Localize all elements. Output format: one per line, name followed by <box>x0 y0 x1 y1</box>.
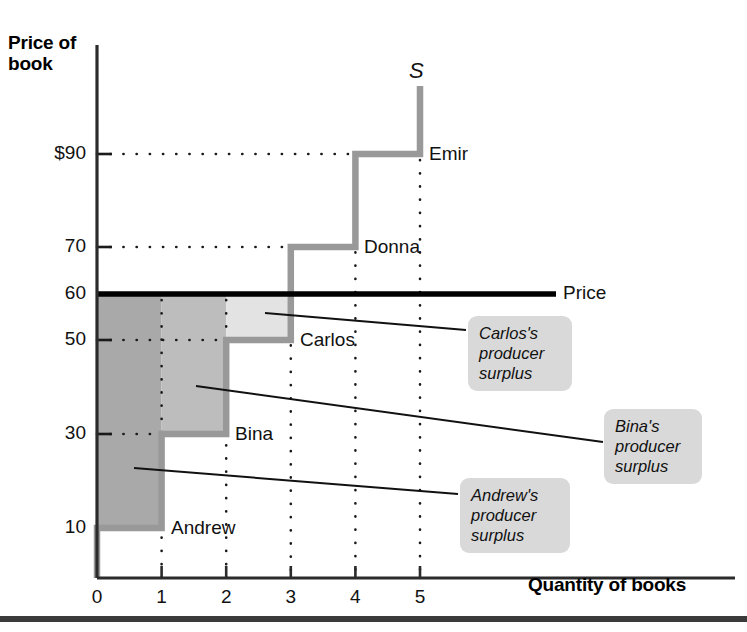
y-tick-label-70: 70 <box>14 235 86 257</box>
x-axis-title: Quantity of books <box>528 574 686 595</box>
surplus-region-carlos <box>226 294 291 340</box>
callout-bina-producer-surplus: Bina's producer surplus <box>604 409 702 484</box>
callout-carlos-producer-surplus: Carlos's producer surplus <box>468 316 572 391</box>
y-tick-label-90: $90 <box>14 142 86 164</box>
x-tick-label-5: 5 <box>407 586 433 608</box>
seller-label-emir: Emir <box>429 143 468 165</box>
surplus-region-andrew <box>97 294 162 528</box>
bottom-rule-divider <box>0 616 747 622</box>
supply-curve-figure: Price of book Quantity of books $90 70 6… <box>0 0 747 632</box>
x-tick-label-4: 4 <box>342 586 368 608</box>
seller-label-donna: Donna <box>364 236 420 258</box>
y-axis-title: Price of book <box>8 32 94 75</box>
x-tick-label-0: 0 <box>84 586 110 608</box>
leader-line-andrew <box>134 468 458 494</box>
y-tick-label-30: 30 <box>14 422 86 444</box>
plot-canvas <box>0 0 747 632</box>
leader-line-carlos <box>265 313 466 330</box>
x-tick-label-2: 2 <box>213 586 239 608</box>
y-tick-label-50: 50 <box>14 328 86 350</box>
x-tick-label-1: 1 <box>149 586 175 608</box>
callout-andrew-producer-surplus: Andrew's producer surplus <box>460 478 570 553</box>
x-tick-label-3: 3 <box>278 586 304 608</box>
y-tick-label-60: 60 <box>14 282 86 304</box>
x-axis-ticks <box>162 566 420 578</box>
y-tick-label-10: 10 <box>14 516 86 538</box>
supply-curve-label: S <box>409 58 424 84</box>
seller-label-bina: Bina <box>235 423 273 445</box>
seller-label-andrew: Andrew <box>171 517 235 539</box>
price-line-label: Price <box>563 282 606 304</box>
surplus-region-bina <box>162 294 227 434</box>
seller-label-carlos: Carlos <box>300 329 355 351</box>
